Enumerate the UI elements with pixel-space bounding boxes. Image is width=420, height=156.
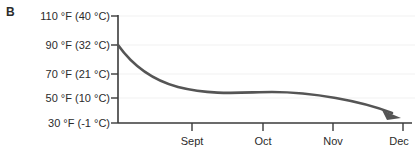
temperature-curve — [118, 45, 392, 113]
plot-area — [0, 0, 420, 156]
y-axis-ticks — [111, 16, 118, 123]
figure-panel-b: B 110 °F (40 °C) 90 °F (32 °C) 70 °F (21… — [0, 0, 420, 156]
x-axis-ticks — [192, 123, 403, 131]
gridlines — [118, 16, 415, 98]
